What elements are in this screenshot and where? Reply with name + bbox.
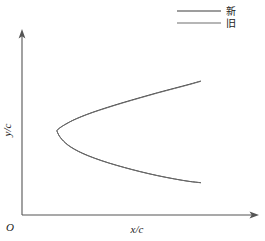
axes-group — [19, 29, 259, 218]
plot-canvas: x/c y/c O 新 旧 — [0, 0, 265, 241]
series-line-old — [57, 81, 200, 182]
series-group — [57, 81, 200, 183]
legend-label-old: 旧 — [226, 18, 236, 29]
x-axis-label: x/c — [130, 223, 144, 235]
series-line-new — [57, 81, 200, 183]
airfoil-profile-figure: x/c y/c O 新 旧 — [0, 0, 265, 241]
origin-label: O — [6, 221, 14, 233]
legend: 新 旧 — [177, 5, 236, 29]
y-axis-label: y/c — [1, 123, 13, 137]
legend-label-new: 新 — [226, 5, 236, 17]
